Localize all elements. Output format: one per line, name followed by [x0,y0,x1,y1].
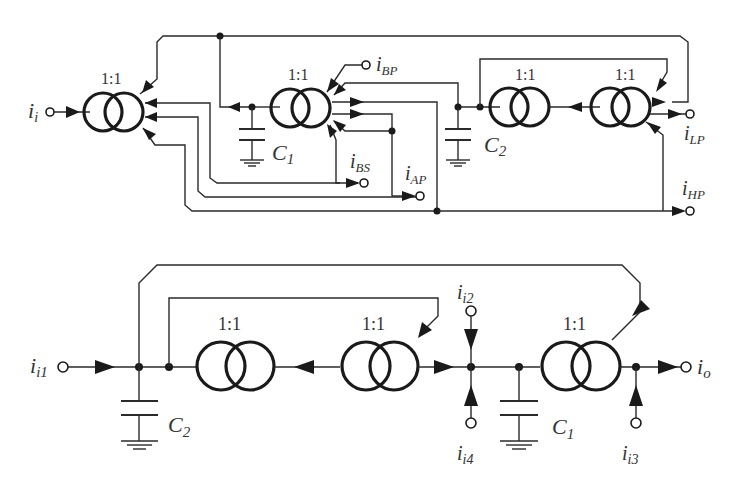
output-label-ap: iAP [405,162,427,187]
ratio-label: 1:1 [101,70,121,87]
ratio-label: 1:1 [563,314,586,334]
input-label-ii4: ii4 [457,442,473,467]
cap-label-c1: C1 [272,140,294,167]
ratio-label: 1:1 [615,66,635,83]
input-label-ii3: ii3 [622,442,638,467]
output-label-bs: iBS [350,150,371,175]
cap-label-c1-bottom: C1 [552,414,574,442]
current-mirror-a [197,342,274,390]
ratio-label: 1:1 [288,66,308,83]
ratio-label: 1:1 [362,314,385,334]
cap-label-c2-bottom: C2 [168,412,191,440]
input-label-ii: ii [28,98,38,125]
input-arrow [66,106,80,118]
ratio-label: 1:1 [515,66,535,83]
output-label-io: io [697,354,711,381]
cap-label-c2: C2 [484,132,507,159]
current-mirror-b [342,342,418,390]
top-circuit: C1 iBP iBS iAP [28,33,705,217]
output-label-hp: iHP [682,177,705,202]
circuit-diagram: C1 iBP iBS iAP [0,0,740,496]
current-mirror-2 [271,89,330,127]
input-terminal-ii [46,108,54,116]
current-mirror-1 [84,93,143,131]
output-label-bp: iBP [376,53,398,78]
ratio-label: 1:1 [218,314,241,334]
input-label-ii1: ii1 [30,353,48,380]
input-label-ii2: ii2 [457,281,473,306]
bottom-circuit: ii1 C2 1:1 1:1 [30,265,711,467]
current-mirror-c [542,342,620,390]
output-label-lp: iLP [684,122,705,147]
